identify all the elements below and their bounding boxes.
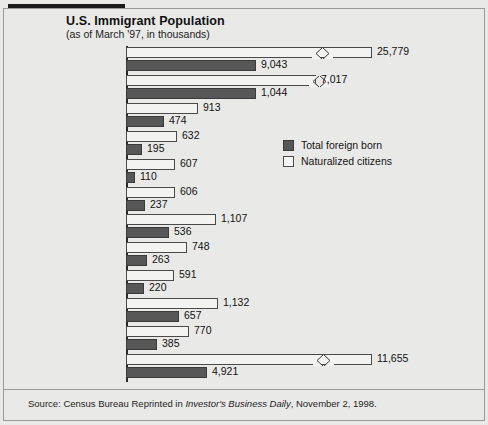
bar-value-dark: 237 xyxy=(150,199,168,210)
bar-value-dark: 263 xyxy=(152,254,170,265)
bar-naturalized-citizens xyxy=(126,326,189,337)
bar-value-dark: 9,043 xyxy=(261,59,287,70)
bar-naturalized-citizens xyxy=(126,75,316,86)
bar-naturalized-citizens xyxy=(126,131,177,142)
bar-naturalized-citizens xyxy=(126,298,218,309)
bar-total-foreign-born xyxy=(126,200,145,211)
bar-value-light: 607 xyxy=(180,158,198,169)
bar-value-light: 632 xyxy=(182,130,200,141)
source-suffix: , November 2, 1998. xyxy=(291,398,377,409)
source-note: Source: Census Bureau Reprinted in Inves… xyxy=(28,398,377,409)
bar-total-foreign-born xyxy=(126,172,135,183)
bar-total-foreign-born xyxy=(126,144,142,155)
bar-naturalized-citizens xyxy=(126,214,216,225)
bar-total-foreign-born xyxy=(126,283,144,294)
bar-naturalized-citizens xyxy=(126,47,372,58)
bar-value-dark: 536 xyxy=(174,226,192,237)
bar-total-foreign-born xyxy=(126,311,179,322)
bar-naturalized-citizens xyxy=(126,187,175,198)
legend-swatch-light xyxy=(283,156,294,167)
bar-total-foreign-born xyxy=(126,88,256,99)
bar-total-foreign-born xyxy=(126,60,256,71)
bar-value-dark: 1,044 xyxy=(261,87,287,98)
legend-label-dark: Total foreign born xyxy=(301,139,382,151)
bar-total-foreign-born xyxy=(126,339,157,350)
bar-total-foreign-born xyxy=(126,116,164,127)
bar-total-foreign-born xyxy=(126,367,207,378)
bar-naturalized-citizens xyxy=(126,159,175,170)
chart-page: U.S. Immigrant Population (as of March '… xyxy=(0,0,488,425)
bar-value-dark: 474 xyxy=(169,115,187,126)
bar-naturalized-citizens xyxy=(126,103,198,114)
bar-total-foreign-born xyxy=(126,227,169,238)
bar-value-light: 1,107 xyxy=(221,213,247,224)
bar-value-dark: 385 xyxy=(162,338,180,349)
legend-item-naturalized-citizens: Naturalized citizens xyxy=(283,155,392,167)
bar-value-light: 591 xyxy=(179,269,197,280)
bar-value-light: 7,017 xyxy=(321,74,347,85)
bar-value-dark: 4,921 xyxy=(212,366,238,377)
bar-value-light: 913 xyxy=(203,102,221,113)
bar-value-light: 606 xyxy=(180,186,198,197)
bar-value-dark: 195 xyxy=(147,143,165,154)
axis-break-icon xyxy=(313,354,335,367)
legend: Total foreign born Naturalized citizens xyxy=(283,139,392,171)
bar-naturalized-citizens xyxy=(126,270,174,281)
bar-value-light: 11,655 xyxy=(377,353,408,364)
bar-naturalized-citizens xyxy=(126,242,187,253)
axis-break-icon xyxy=(312,47,334,60)
bar-value-dark: 220 xyxy=(149,282,167,293)
bar-value-dark: 657 xyxy=(184,310,202,321)
bar-value-light: 25,779 xyxy=(377,46,409,57)
bar-total-foreign-born xyxy=(126,255,147,266)
footer-divider xyxy=(4,389,484,390)
bar-value-dark: 110 xyxy=(140,171,157,182)
bar-value-light: 770 xyxy=(194,325,212,336)
bar-naturalized-citizens xyxy=(126,354,372,365)
source-prefix: Source: Census Bureau Reprinted in xyxy=(28,398,185,409)
legend-swatch-dark xyxy=(283,140,294,151)
source-publication: Investor's Business Daily xyxy=(185,398,290,409)
legend-item-total-foreign-born: Total foreign born xyxy=(283,139,392,151)
legend-label-light: Naturalized citizens xyxy=(301,155,392,167)
plot-area: All25,7799,043Mexico7,0171,044Cuba913474… xyxy=(0,0,488,425)
bar-value-light: 1,132 xyxy=(223,297,249,308)
bar-value-light: 748 xyxy=(192,241,210,252)
